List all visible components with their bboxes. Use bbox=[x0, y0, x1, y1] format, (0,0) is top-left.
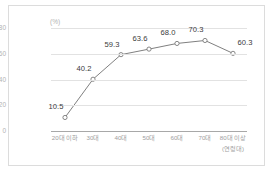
x-axis-tick-label: 80대 이상 bbox=[220, 134, 247, 142]
data-point-label: 59.3 bbox=[105, 41, 120, 49]
y-axis-tick-label: 80 bbox=[0, 25, 6, 32]
data-point-label: 68.0 bbox=[161, 30, 176, 38]
gridline bbox=[51, 80, 247, 81]
data-point-marker[interactable] bbox=[63, 115, 67, 119]
data-point-marker[interactable] bbox=[147, 47, 151, 51]
data-point-label: 60.3 bbox=[238, 40, 253, 48]
x-axis-unit-label: (연령대) bbox=[222, 144, 244, 153]
x-axis-tick-label: 30대 bbox=[87, 134, 100, 142]
gridline bbox=[51, 28, 247, 29]
x-axis-tick-label: 50대 bbox=[143, 134, 156, 142]
x-axis-tick-label: 70대 bbox=[199, 134, 212, 142]
data-point-label: 10.5 bbox=[49, 104, 64, 112]
data-point-label: 40.2 bbox=[77, 65, 92, 73]
y-axis-tick-label: 40 bbox=[0, 77, 6, 84]
data-point-marker[interactable] bbox=[203, 38, 207, 42]
data-point-label: 63.6 bbox=[133, 35, 148, 43]
x-axis-tick-label: 40대 bbox=[115, 134, 128, 142]
chart-frame: (%) 02040608010.540.259.363.668.070.360.… bbox=[8, 5, 265, 166]
x-axis-line bbox=[51, 131, 247, 132]
y-axis-tick-label: 60 bbox=[0, 51, 6, 58]
data-point-marker[interactable] bbox=[175, 41, 179, 45]
gridline bbox=[51, 54, 247, 55]
plot-area: 02040608010.540.259.363.668.070.360.3 bbox=[51, 28, 247, 131]
y-axis-tick-label: 20 bbox=[0, 102, 6, 109]
y-axis-unit-label: (%) bbox=[50, 19, 60, 26]
y-axis-tick-label: 0 bbox=[0, 128, 6, 135]
data-point-label: 70.3 bbox=[189, 27, 204, 35]
gridline bbox=[51, 105, 247, 106]
x-axis-tick-label: 20대 이하 bbox=[52, 134, 79, 142]
x-axis-tick-label: 60대 bbox=[171, 134, 184, 142]
